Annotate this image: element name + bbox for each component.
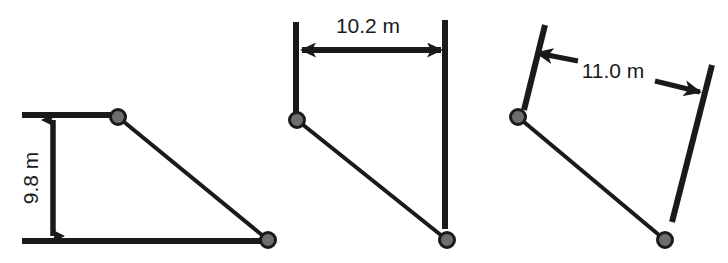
rod-right bbox=[518, 117, 665, 240]
figure-canvas: 9.8 m 10.2 m 11.0 m bbox=[0, 0, 728, 263]
dimension-label-vertical: 9.8 m bbox=[19, 152, 42, 205]
rod-end-ball-upper-right bbox=[511, 110, 526, 125]
rod-end-ball-upper-middle bbox=[290, 113, 305, 128]
rod-end-ball-lower-right bbox=[658, 233, 673, 248]
rod-left bbox=[118, 117, 268, 240]
panel-right: 11.0 m bbox=[511, 25, 713, 248]
dimension-label-horizontal: 10.2 m bbox=[336, 14, 400, 37]
panel-middle: 10.2 m bbox=[290, 14, 455, 248]
dimension-arrow-upper-right bbox=[537, 53, 578, 61]
upper-reference-line-right bbox=[524, 25, 545, 110]
rod-middle bbox=[297, 120, 447, 240]
panel-left: 9.8 m bbox=[19, 110, 276, 248]
physics-diagram-svg: 9.8 m 10.2 m 11.0 m bbox=[0, 0, 728, 263]
rod-end-ball-upper-left bbox=[111, 110, 126, 125]
rod-end-ball-lower-left bbox=[261, 233, 276, 248]
dimension-arrow-lower-right bbox=[655, 81, 700, 92]
rod-end-ball-lower-middle bbox=[440, 233, 455, 248]
dimension-label-diagonal: 11.0 m bbox=[582, 59, 645, 82]
